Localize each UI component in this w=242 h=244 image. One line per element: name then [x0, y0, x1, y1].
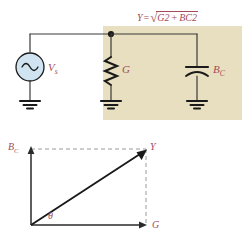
formula-term1-exponent: 2: [165, 12, 170, 23]
formula-term2-subscript: C: [185, 12, 192, 23]
formula-radicand: G2+BC2: [156, 11, 198, 23]
formula-equals: =: [144, 12, 150, 23]
source-label-base: V: [48, 61, 55, 73]
susceptance-label-subscript: C: [220, 69, 225, 78]
source-label-subscript: s: [55, 67, 58, 76]
axis-vertical-arrowhead: [28, 146, 35, 154]
phasor-angle-label-theta: θ: [48, 211, 53, 221]
admittance-formula: Y=√G2+BC2: [137, 10, 198, 23]
source-label: Vs: [48, 62, 58, 76]
phasor-resultant-label-y: Y: [150, 142, 156, 152]
circuit-and-phasor-svg: [0, 0, 242, 244]
phasor-diagram: [28, 146, 147, 228]
formula-term2-exponent: 2: [192, 12, 197, 23]
phasor-bc-subscript: C: [14, 147, 19, 154]
conductance-label: G: [122, 64, 130, 78]
formula-term1-base: G: [157, 12, 164, 23]
formula-lhs: Y: [137, 12, 143, 23]
conductance-label-base: G: [122, 63, 130, 75]
susceptance-label-base: B: [213, 63, 220, 75]
phasor-axis-label-g: G: [152, 220, 159, 230]
formula-radical-sign: √: [150, 10, 157, 25]
ground-icon-source: [20, 101, 40, 109]
formula-plus: +: [172, 12, 178, 23]
figure-root: Y=√G2+BC2 Vs G BC BC G Y θ: [0, 0, 242, 244]
susceptance-label: BC: [213, 64, 225, 78]
phasor-axis-label-bc: BC: [8, 142, 19, 155]
